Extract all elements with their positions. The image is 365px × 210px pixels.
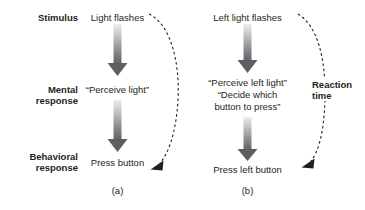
panel-a-behavioral-node: Press button	[62, 157, 173, 169]
panel-a-mental-node: “Perceive light”	[62, 84, 173, 96]
reaction-time-label: Reaction time	[311, 79, 353, 101]
panel-a-stimulus-node: Light flashes	[62, 12, 173, 24]
arrow-a-mental-to-behavioral	[108, 100, 128, 152]
panel-a-caption: (a)	[87, 186, 148, 196]
arrow-a-stimulus-to-mental	[108, 24, 128, 76]
figure-canvas: Stimulus Mental response Behavioral resp…	[0, 0, 365, 210]
panel-b-stimulus-node: Left light flashes	[188, 12, 307, 24]
panel-b-behavioral-node: Press left button	[186, 164, 309, 176]
panel-b-caption: (b)	[217, 186, 278, 196]
panel-b-mental-node: “Perceive left light” “Decide which butt…	[186, 77, 309, 113]
arrow-b-stimulus-to-mental	[238, 24, 258, 73]
arrow-b-mental-to-behavioral	[238, 117, 258, 161]
